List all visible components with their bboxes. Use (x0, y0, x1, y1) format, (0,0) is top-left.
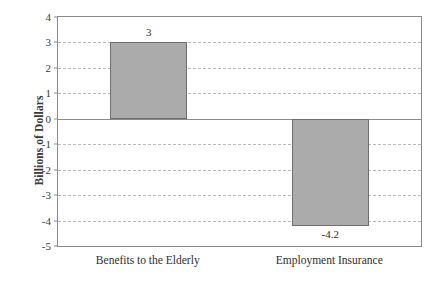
y-tick-mark (54, 93, 58, 94)
y-tick-mark (54, 42, 58, 43)
y-tick-mark (54, 195, 58, 196)
x-category-label: Benefits to the Elderly (96, 254, 200, 266)
x-category-label: Employment Insurance (276, 254, 383, 266)
y-tick-mark (54, 67, 58, 68)
y-tick-label: -2 (42, 164, 51, 176)
y-tick-label: 0 (46, 113, 52, 125)
plot-area: 43210-1-2-3-4-53-4.2 (57, 16, 422, 247)
bar-value-label: 3 (146, 26, 152, 38)
bar-chart: Billions of Dollars 43210-1-2-3-4-53-4.2… (0, 0, 448, 281)
y-tick-label: -3 (42, 189, 51, 201)
bar-value-label: -4.2 (322, 228, 339, 240)
y-tick-label: 4 (46, 11, 52, 23)
y-tick-label: -1 (42, 138, 51, 150)
y-tick-label: -5 (42, 240, 51, 252)
y-tick-label: -4 (42, 215, 51, 227)
y-tick-mark (54, 220, 58, 221)
bar[interactable] (292, 119, 369, 226)
y-tick-mark (54, 17, 58, 18)
y-tick-mark (54, 118, 58, 119)
y-tick-label: 1 (46, 87, 52, 99)
y-tick-mark (54, 169, 58, 170)
y-tick-mark (54, 144, 58, 145)
y-tick-label: 2 (46, 62, 52, 74)
y-tick-mark (54, 246, 58, 247)
y-tick-label: 3 (46, 36, 52, 48)
bar[interactable] (110, 42, 187, 118)
